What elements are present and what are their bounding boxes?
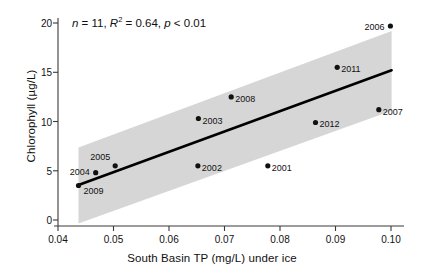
annotation-r2-value: = 0.64, [126,17,162,29]
data-point [229,94,234,99]
annotation-p-symbol: p [164,17,170,29]
data-point [196,116,201,121]
data-point-label: 2011 [341,64,360,74]
data-point-label: 2003 [202,116,222,126]
statistics-annotation: n = 11, R2 = 0.64, p < 0.01 [72,15,206,29]
data-point [313,120,318,125]
data-point [388,23,393,28]
data-point-label: 2004 [70,167,90,177]
data-point [76,183,81,188]
annotation-n-value: = 11, [82,17,107,29]
annotation-r2-symbol: R [110,17,118,29]
data-point-label: 2008 [235,94,255,104]
y-tick-marks [53,23,58,220]
x-tick-marks [58,226,391,231]
x-tick-label: 0.05 [104,234,123,245]
data-point [335,65,340,70]
data-point-label: 2002 [202,163,222,173]
x-tick-label: 0.09 [326,234,345,245]
x-tick-label: 0.04 [48,234,67,245]
scatter-plot-figure: 0.040.050.060.070.080.090.10 05101520 20… [0,0,424,276]
x-axis-title: South Basin TP (mg/L) under ice [0,252,424,264]
x-tick-label: 0.08 [270,234,289,245]
data-point [113,163,118,168]
regression-line [79,70,392,185]
data-point-label: 2006 [364,22,384,32]
data-point-label: 2007 [383,107,403,117]
data-point [93,170,98,175]
y-axis-title: Chlorophyll (µg/L) [25,9,37,224]
data-point [195,163,200,168]
annotation-n-symbol: n [72,17,78,29]
data-point [376,107,381,112]
annotation-p-value: < 0.01 [174,17,206,29]
x-tick-label: 0.06 [159,234,178,245]
data-point-label: 2012 [320,119,340,129]
regression-line-group [79,70,392,185]
data-point-label: 2009 [84,186,104,196]
annotation-r2-exponent: 2 [118,15,122,24]
data-point-label: 2001 [272,163,292,173]
data-point [265,163,270,168]
x-tick-label: 0.07 [215,234,234,245]
x-tick-label: 0.10 [381,234,400,245]
data-point-label: 2005 [90,152,110,162]
